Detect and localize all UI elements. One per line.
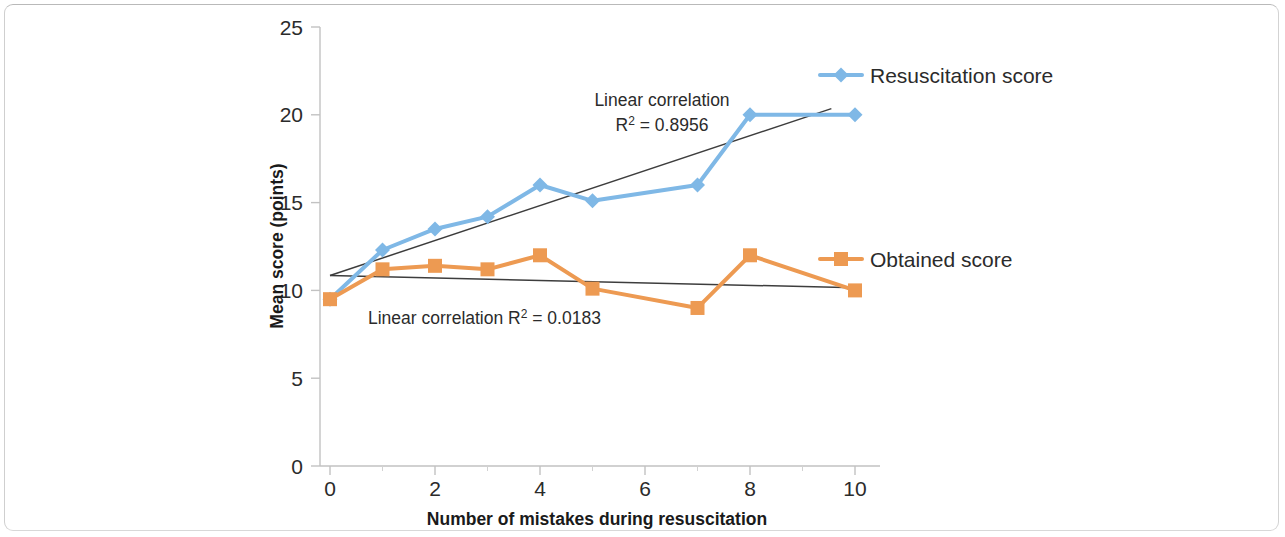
data-point-marker (743, 248, 757, 262)
legend-label: Obtained score (870, 248, 1012, 271)
legend-item-resuscitation[interactable]: Resuscitation score (820, 64, 1053, 87)
y-axis-ticks (311, 27, 320, 466)
x-tick-label: 0 (324, 477, 336, 500)
data-point-marker (586, 282, 600, 296)
data-point-marker (428, 259, 442, 273)
data-point-marker (691, 301, 705, 315)
orange-trend-annotation: Linear correlation R2 = 0.0183 (368, 307, 601, 328)
figure-page: 0510152025 0246810 Number of mistakes du… (0, 0, 1285, 537)
x-axis-tick-labels: 0246810 (324, 477, 867, 500)
annotation-line-2: R2 = 0.8956 (616, 114, 709, 135)
x-axis-ticks (330, 466, 855, 475)
x-tick-label: 8 (744, 477, 756, 500)
data-point-marker (428, 221, 443, 236)
annotation-text: Linear correlation R2 = 0.0183 (368, 307, 601, 328)
annotation-line-1: Linear correlation (594, 90, 729, 110)
x-axis-title: Number of mistakes during resuscitation (427, 509, 767, 529)
chart-legend: Resuscitation scoreObtained score (820, 64, 1053, 271)
x-axis: 0246810 (320, 466, 880, 500)
data-point-marker (585, 193, 600, 208)
y-tick-label: 25 (280, 16, 303, 39)
data-point-marker (848, 283, 862, 297)
chart-svg: 0510152025 0246810 Number of mistakes du… (0, 0, 1285, 537)
data-point-marker (376, 262, 390, 276)
data-point-marker (533, 248, 547, 262)
x-tick-label: 6 (639, 477, 651, 500)
x-tick-label: 10 (843, 477, 866, 500)
x-tick-label: 4 (534, 477, 546, 500)
series-markers (323, 107, 863, 315)
series-lines (330, 115, 855, 308)
legend-item-obtained[interactable]: Obtained score (820, 248, 1012, 271)
chart-annotations: Linear correlationR2 = 0.8956Linear corr… (368, 90, 730, 328)
data-point-marker (323, 292, 337, 306)
data-point-marker (481, 262, 495, 276)
y-tick-label: 5 (291, 367, 303, 390)
line-chart: 0510152025 0246810 Number of mistakes du… (0, 0, 1285, 537)
y-axis-title: Mean score (points) (267, 163, 287, 328)
x-tick-label: 2 (429, 477, 441, 500)
legend-marker-square-icon (834, 252, 848, 266)
legend-label: Resuscitation score (870, 64, 1053, 87)
blue-trend-annotation: Linear correlationR2 = 0.8956 (594, 90, 729, 135)
y-tick-label: 20 (280, 103, 303, 126)
y-tick-label: 0 (291, 455, 303, 478)
legend-marker-diamond-icon (834, 68, 849, 83)
data-point-marker (848, 107, 863, 122)
